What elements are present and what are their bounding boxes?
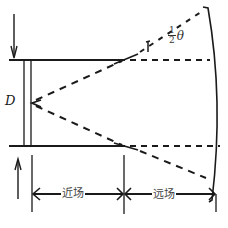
- beam-diagram: [0, 0, 228, 228]
- near-field-label: 近场: [61, 188, 85, 199]
- far-field-label: 远场: [152, 189, 176, 200]
- lower-diverge-dashed: [36, 106, 122, 145]
- half-fraction: 1 2: [168, 26, 176, 45]
- half-angle-label: 1 2 θ: [168, 26, 184, 45]
- diameter-label: D: [5, 94, 15, 107]
- focus-arrowhead: [32, 100, 41, 107]
- lower-far-diverge: [140, 151, 206, 178]
- wavefront-arc: [203, 7, 217, 202]
- angle-marker-top: [146, 41, 150, 42]
- upper-diverge-dashed: [36, 61, 122, 100]
- theta-symbol: θ: [177, 30, 184, 42]
- fraction-denominator: 2: [169, 36, 175, 45]
